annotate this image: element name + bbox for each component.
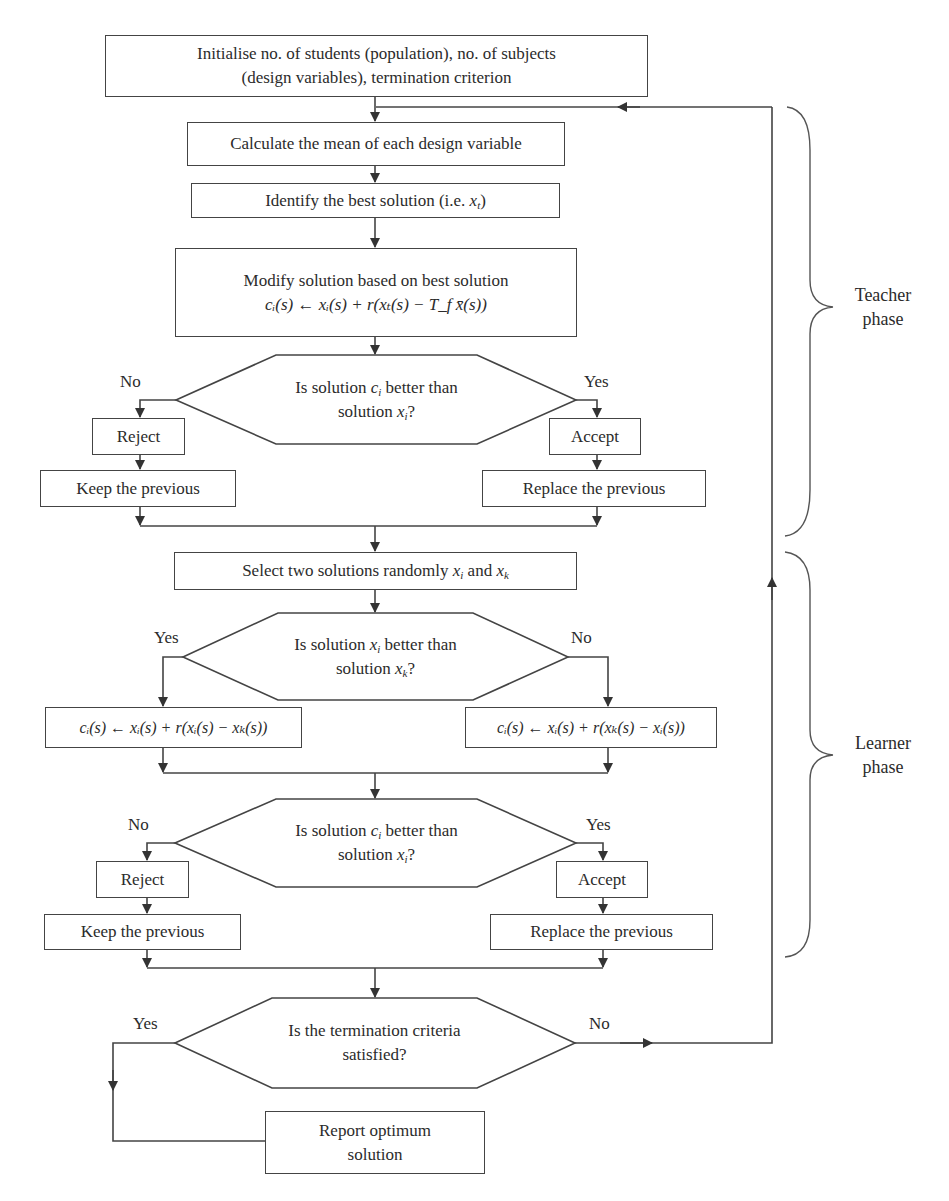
init-line2: (design variables), termination criterio… — [241, 66, 511, 90]
d2-l2-pre: solution — [336, 659, 395, 678]
learner-update-right-box: cᵢ(s) ← xᵢ(s) + r(xₖ(s) − xᵢ(s)) — [465, 707, 717, 748]
calculate-mean-text: Calculate the mean of each design variab… — [230, 132, 522, 156]
d1-yes-label: Yes — [584, 372, 609, 392]
init-box: Initialise no. of students (population),… — [105, 35, 648, 97]
keep-previous-box-1: Keep the previous — [40, 470, 236, 507]
d2-l1-pre: Is solution — [294, 635, 370, 654]
d1-no-label: No — [120, 372, 141, 392]
modify-solution-text: Modify solution based on best solution — [244, 269, 509, 293]
report-optimum-box: Report optimum solution — [265, 1111, 485, 1174]
d2-l2-var: x — [395, 659, 403, 678]
teacher-phase-label: Teacher phase — [838, 283, 928, 331]
learner-brace — [785, 552, 833, 957]
reject-box-2: Reject — [96, 861, 189, 898]
d1-l2-post: ? — [408, 402, 416, 421]
d1-l1-pre: Is solution — [295, 378, 371, 397]
d3-l1-pre: Is solution — [295, 821, 371, 840]
teacher-phase-line1: Teacher — [838, 283, 928, 307]
d2-l2-post: ? — [407, 659, 415, 678]
accept-2-text: Accept — [578, 868, 626, 892]
keep-2-text: Keep the previous — [81, 920, 205, 944]
decision-3-line2: solution xi? — [338, 843, 415, 867]
d2-l1-post: better than — [380, 635, 456, 654]
decision-1-line1: Is solution ci better than — [295, 376, 458, 400]
teacher-phase-line2: phase — [838, 307, 928, 331]
reject-2-text: Reject — [121, 868, 164, 892]
identify-best-text: Identify the best solution (i.e. xt) — [265, 189, 486, 213]
init-line1: Initialise no. of students (population),… — [197, 42, 556, 66]
d4-no-label: No — [589, 1014, 610, 1034]
decision-3-text: Is solution ci better than solution xi? — [276, 799, 477, 887]
learner-update-right-formula: cᵢ(s) ← xᵢ(s) + r(xₖ(s) − xᵢ(s)) — [497, 716, 685, 740]
d2-yes-label: Yes — [154, 628, 179, 648]
learner-update-left-formula: cᵢ(s) ← xᵢ(s) + r(xᵢ(s) − xₖ(s)) — [80, 716, 268, 740]
decision-2-line1: Is solution xi better than — [294, 633, 457, 657]
report-line1: Report optimum — [319, 1119, 431, 1143]
decision-1-line2: solution xi? — [338, 400, 415, 424]
select-v2: x — [496, 561, 504, 580]
select-text: Select two solutions randomly xi and xk — [242, 559, 509, 583]
learner-phase-line2: phase — [838, 755, 928, 779]
decision-1-text: Is solution ci better than solution xi? — [276, 355, 477, 444]
select-mid: and — [463, 561, 496, 580]
learner-phase-line1: Learner — [838, 731, 928, 755]
accept-1-text: Accept — [571, 425, 619, 449]
report-line2: solution — [348, 1143, 403, 1167]
keep-previous-box-2: Keep the previous — [44, 914, 241, 950]
reject-1-text: Reject — [117, 425, 160, 449]
replace-1-text: Replace the previous — [523, 477, 666, 501]
replace-previous-box-1: Replace the previous — [482, 470, 706, 507]
decision-3-line1: Is solution ci better than — [295, 819, 458, 843]
reject-box-1: Reject — [92, 418, 185, 455]
keep-1-text: Keep the previous — [76, 477, 200, 501]
d1-l2-pre: solution — [338, 402, 397, 421]
decision-4-text: Is the termination criteria satisfied? — [272, 998, 477, 1088]
accept-box-1: Accept — [549, 418, 641, 455]
d3-l1-post: better than — [381, 821, 457, 840]
teacher-brace — [785, 107, 833, 536]
d4-line2: satisfied? — [342, 1043, 406, 1067]
decision-2-text: Is solution xi better than solution xk? — [278, 613, 473, 700]
d2-no-label: No — [571, 628, 592, 648]
select-two-solutions-box: Select two solutions randomly xi and xk — [174, 552, 577, 590]
learner-update-left-box: cᵢ(s) ← xᵢ(s) + r(xᵢ(s) − xₖ(s)) — [45, 707, 302, 748]
d3-yes-label: Yes — [586, 815, 611, 835]
replace-2-text: Replace the previous — [530, 920, 673, 944]
select-s2: k — [504, 569, 509, 581]
var-x: x — [470, 191, 478, 210]
d3-l2-pre: solution — [338, 845, 397, 864]
decision-2-line2: solution xk? — [336, 657, 415, 681]
identify-best-label: Identify the best solution (i.e. — [265, 191, 469, 210]
d1-l1-post: better than — [381, 378, 457, 397]
learner-phase-label: Learner phase — [838, 731, 928, 779]
modify-solution-box: Modify solution based on best solution c… — [175, 248, 577, 337]
d3-l2-post: ? — [408, 845, 416, 864]
accept-box-2: Accept — [556, 861, 648, 898]
identify-best-box: Identify the best solution (i.e. xt) — [191, 183, 560, 218]
teacher-update-formula: cᵢ(s) ← xᵢ(s) + r(xₜ(s) − T_f x̄(s)) — [265, 293, 487, 317]
calculate-mean-box: Calculate the mean of each design variab… — [187, 122, 565, 166]
select-pre: Select two solutions randomly — [242, 561, 453, 580]
replace-previous-box-2: Replace the previous — [490, 914, 713, 950]
d3-no-label: No — [128, 815, 149, 835]
d4-yes-label: Yes — [133, 1014, 158, 1034]
close-paren: ) — [480, 191, 486, 210]
d4-line1: Is the termination criteria — [288, 1019, 460, 1043]
